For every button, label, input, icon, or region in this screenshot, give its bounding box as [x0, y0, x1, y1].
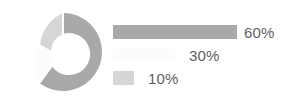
legend-swatch-10-icon	[113, 71, 134, 85]
legend-item-10[interactable]: 10%	[113, 68, 179, 88]
legend-swatch-30-icon	[113, 48, 175, 62]
donut-chart-svg	[22, 11, 104, 93]
legend-label-10: 10%	[148, 70, 179, 87]
donut-slice-10[interactable]	[40, 13, 63, 51]
legend-label-30: 30%	[189, 47, 220, 64]
legend-label-60: 60%	[244, 24, 275, 41]
legend-item-60[interactable]: 60%	[113, 22, 275, 42]
chart-figure: 60% 30% 10%	[0, 0, 303, 105]
legend-item-30[interactable]: 30%	[113, 45, 220, 65]
donut-chart[interactable]	[22, 11, 104, 93]
legend-swatch-60-icon	[113, 25, 237, 39]
chart-legend: 60% 30% 10%	[113, 18, 303, 92]
